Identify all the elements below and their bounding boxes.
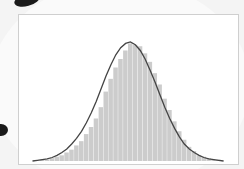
histogram-bar [143, 53, 148, 161]
histogram-bar [138, 46, 143, 161]
histogram-bar [148, 62, 153, 161]
histogram-bar [79, 141, 84, 161]
histogram-bar [108, 79, 113, 161]
histogram-bar [55, 157, 60, 161]
histogram-bar [64, 153, 69, 162]
histogram-bar [89, 127, 94, 161]
histogram-bar [113, 68, 118, 162]
histogram-bar [128, 43, 133, 161]
histogram-bar [104, 92, 109, 161]
histogram-bar [157, 85, 162, 162]
histogram-bar [84, 134, 89, 161]
histogram-bar [118, 59, 123, 161]
histogram-bar [59, 155, 64, 161]
histogram-bars [40, 43, 221, 161]
histogram-bar [74, 145, 79, 161]
histogram-bar [94, 119, 99, 162]
histogram-chart [0, 0, 244, 169]
histogram-bar [123, 51, 128, 162]
histogram-bar [133, 45, 138, 161]
histogram-bar [69, 150, 74, 161]
histogram-bar [99, 107, 104, 161]
